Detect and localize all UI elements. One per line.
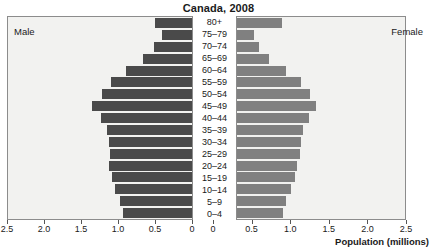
x-axis-tick-label: 0 bbox=[189, 224, 194, 234]
x-axis-tick-label: 2.0 bbox=[361, 224, 374, 234]
age-group-label: 60–64 bbox=[193, 64, 236, 76]
age-group-label-column: 80+75–7970–7465–6960–6455–5950–5445–4940… bbox=[192, 16, 237, 220]
x-axis-tick-label: 1.5 bbox=[323, 224, 336, 234]
age-group-label: 65–69 bbox=[193, 52, 236, 64]
male-bar bbox=[115, 184, 193, 194]
male-side-caption: Male bbox=[14, 26, 35, 37]
male-bar bbox=[154, 42, 193, 52]
male-bar bbox=[120, 196, 193, 206]
age-group-label: 20–24 bbox=[193, 160, 236, 172]
male-bar bbox=[109, 137, 193, 147]
male-bar bbox=[111, 77, 193, 87]
x-axis-tick-label: 1.5 bbox=[75, 224, 88, 234]
x-axis: 2.52.01.51.00.5000.51.01.52.02.5 bbox=[7, 220, 406, 234]
female-side-caption: Female bbox=[391, 26, 423, 37]
male-bar bbox=[109, 161, 193, 171]
x-axis-title: Population (millions) bbox=[335, 236, 429, 247]
x-axis-tick-label: 0.5 bbox=[245, 224, 258, 234]
male-bar bbox=[102, 89, 193, 99]
population-pyramid-chart: Canada, 2008 80+75–7970–7465–6960–6455–5… bbox=[0, 0, 437, 252]
age-group-label: 25–29 bbox=[193, 148, 236, 160]
age-group-label: 15–19 bbox=[193, 172, 236, 184]
age-group-label: 0–4 bbox=[193, 208, 236, 220]
age-group-label: 30–34 bbox=[193, 136, 236, 148]
x-axis-tick-label: 1.0 bbox=[284, 224, 297, 234]
age-group-label: 45–49 bbox=[193, 100, 236, 112]
age-group-label: 80+ bbox=[193, 16, 236, 28]
x-axis-tick-label: 0 bbox=[210, 224, 215, 234]
age-group-label: 55–59 bbox=[193, 76, 236, 88]
male-bar bbox=[107, 125, 193, 135]
x-axis-tick-label: 2.0 bbox=[38, 224, 51, 234]
x-axis-tick-label: 0.5 bbox=[149, 224, 162, 234]
male-bar bbox=[155, 18, 193, 28]
male-bar bbox=[143, 54, 193, 64]
male-bar bbox=[123, 208, 193, 218]
age-group-label: 40–44 bbox=[193, 112, 236, 124]
age-group-label: 5–9 bbox=[193, 196, 236, 208]
male-bar bbox=[126, 66, 193, 76]
age-group-label: 70–74 bbox=[193, 40, 236, 52]
age-group-label: 10–14 bbox=[193, 184, 236, 196]
x-axis-tick-label: 2.5 bbox=[400, 224, 413, 234]
male-bar bbox=[101, 113, 194, 123]
age-group-label: 75–79 bbox=[193, 28, 236, 40]
x-axis-tick-label: 2.5 bbox=[1, 224, 14, 234]
x-axis-tick-label: 1.0 bbox=[112, 224, 125, 234]
male-bar bbox=[110, 149, 193, 159]
chart-title: Canada, 2008 bbox=[0, 2, 437, 14]
male-bar bbox=[112, 172, 193, 182]
age-group-label: 35–39 bbox=[193, 124, 236, 136]
male-bar bbox=[162, 30, 193, 40]
age-group-label: 50–54 bbox=[193, 88, 236, 100]
male-bar bbox=[92, 101, 193, 111]
